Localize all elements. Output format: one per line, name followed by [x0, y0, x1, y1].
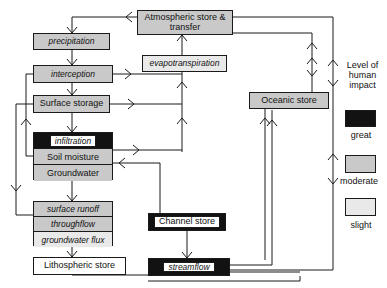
legend-title-line-3: impact	[338, 80, 387, 90]
node-evapotranspiration[interactable]: evapotranspiration	[142, 55, 227, 72]
node-label-surface-runoff: surface runoff	[44, 204, 102, 214]
node-label-precipitation: precipitation	[46, 37, 98, 46]
legend-title: Level of human impact	[338, 60, 387, 90]
node-groundwater[interactable]: Groundwater	[34, 165, 112, 181]
node-label-infiltration: infiltration	[50, 135, 96, 147]
legend-swatch-moderate	[345, 155, 376, 173]
legend-swatch-great	[345, 110, 376, 127]
node-label-oceanic-store: Oceanic store	[261, 96, 317, 105]
node-throughflow[interactable]: throughflow	[34, 217, 112, 232]
node-label-groundwater-flux: groundwater flux	[39, 235, 108, 245]
diagram-canvas: Atmospheric store & transfer precipitati…	[0, 0, 387, 288]
node-label-evapotranspiration: evapotranspiration	[147, 59, 223, 68]
node-atmospheric-store[interactable]: Atmospheric store & transfer	[137, 10, 233, 35]
legend-label-slight: slight	[338, 220, 384, 230]
legend-title-line-2: human	[338, 70, 387, 80]
node-group-subsurface: infiltration Soil moisture Groundwater	[33, 132, 113, 180]
legend-label-great: great	[338, 130, 384, 140]
node-lithospheric-store[interactable]: Lithospheric store	[33, 257, 126, 275]
node-label-streamflow: streamflow	[163, 262, 214, 273]
node-surface-runoff[interactable]: surface runoff	[34, 202, 112, 217]
node-label-surface-storage: Surface storage	[40, 99, 104, 108]
node-label-throughflow: throughflow	[48, 219, 98, 229]
legend-label-moderate: moderate	[331, 176, 387, 186]
node-label-atmospheric: Atmospheric store & transfer	[138, 13, 232, 32]
node-groundwater-flux[interactable]: groundwater flux	[34, 232, 112, 247]
node-label-interception: interception	[48, 70, 98, 79]
node-infiltration[interactable]: infiltration	[34, 133, 112, 149]
node-precipitation[interactable]: precipitation	[33, 33, 110, 50]
node-label-channel-store: Channel store	[154, 216, 220, 227]
node-label-groundwater: Groundwater	[47, 168, 99, 178]
legend-swatch-slight	[345, 198, 376, 216]
node-soil-moisture[interactable]: Soil moisture	[34, 149, 112, 165]
legend-title-line-1: Level of	[338, 60, 387, 70]
node-group-flows: surface runoff throughflow groundwater f…	[33, 201, 113, 246]
node-label-soil-moisture: Soil moisture	[47, 152, 99, 162]
node-interception[interactable]: interception	[33, 65, 113, 83]
node-surface-storage[interactable]: Surface storage	[33, 95, 110, 113]
node-channel-store[interactable]: Channel store	[148, 213, 226, 231]
node-streamflow[interactable]: streamflow	[148, 258, 230, 276]
node-label-lithospheric-store: Lithospheric store	[44, 261, 115, 270]
node-oceanic-store[interactable]: Oceanic store	[249, 92, 329, 109]
